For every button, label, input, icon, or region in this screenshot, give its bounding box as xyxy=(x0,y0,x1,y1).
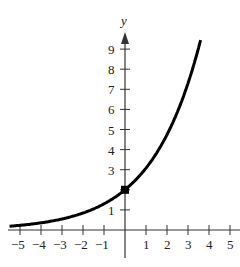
exponential-graph: y −5−4−3−2−112345 13456789 xyxy=(0,0,240,267)
x-tick-label: −3 xyxy=(53,237,67,252)
y-tick-label: 5 xyxy=(108,123,115,138)
x-tick-label: −4 xyxy=(32,237,46,252)
y-tick-label: 7 xyxy=(108,82,115,97)
x-tick-label: 2 xyxy=(164,237,171,252)
x-ticks: −5−4−3−2−112345 xyxy=(11,225,234,252)
y-tick-label: 8 xyxy=(108,62,115,77)
x-tick-label: −1 xyxy=(95,237,109,252)
x-tick-label: −2 xyxy=(74,237,88,252)
x-tick-label: 3 xyxy=(185,237,192,252)
y-tick-label: 9 xyxy=(108,42,115,57)
curve-line xyxy=(10,40,201,226)
y-axis-label: y xyxy=(119,13,127,28)
y-tick-label: 4 xyxy=(108,143,115,158)
y-tick-label: 1 xyxy=(108,203,115,218)
y-tick-label: 3 xyxy=(108,163,115,178)
x-tick-label: 1 xyxy=(143,237,150,252)
y-intercept-point xyxy=(121,186,129,194)
x-tick-label: −5 xyxy=(11,237,25,252)
x-tick-label: 5 xyxy=(227,237,234,252)
x-tick-label: 4 xyxy=(206,237,213,252)
y-axis-arrow-icon xyxy=(121,32,129,44)
y-tick-label: 6 xyxy=(108,102,115,117)
